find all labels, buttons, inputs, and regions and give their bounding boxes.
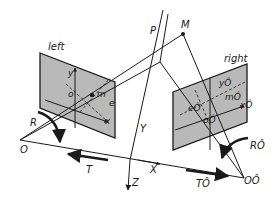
translation-T-arrow (68, 154, 108, 160)
rotation-R-label: R (30, 117, 37, 128)
point-M-label: M (181, 19, 190, 30)
right-camera-label: right (224, 53, 249, 64)
right-image-plane (173, 64, 247, 150)
left-x-label: x (104, 116, 111, 126)
right-m-label: mÔ (225, 91, 241, 102)
point-P-label: P (150, 25, 157, 36)
rotation-RO-label: RÔ (250, 139, 265, 151)
left-o-label: o (68, 89, 74, 99)
Y-axis-label: Y (140, 123, 147, 134)
origin-OO-label: OÔ (244, 174, 260, 186)
left-m-label: m (97, 89, 106, 99)
left-e-label: e (109, 98, 115, 108)
translation-TO-label: TÔ (196, 177, 210, 189)
left-camera-label: left (48, 41, 65, 52)
translation-T-label: T (86, 164, 93, 175)
translation-TO-arrow (186, 170, 228, 176)
left-y-label: y (67, 68, 74, 78)
right-x-label: xÔ (239, 99, 252, 110)
right-y-label: yÔ (218, 77, 231, 88)
X-axis-label: X (149, 164, 158, 175)
stereo-geometry-diagram: left right P M y o m e x yÔ mÔ eÔ xÔ oÔ … (0, 0, 276, 200)
right-o-label: oÔ (203, 114, 216, 125)
Y-axis (130, 10, 163, 160)
point-M (181, 32, 185, 36)
Z-axis-label: Z (131, 177, 140, 188)
Z-axis (128, 160, 130, 190)
origin-O-label: O (20, 144, 28, 155)
rotation-RO-arrow (222, 138, 248, 158)
right-e-label: eÔ (188, 102, 201, 113)
